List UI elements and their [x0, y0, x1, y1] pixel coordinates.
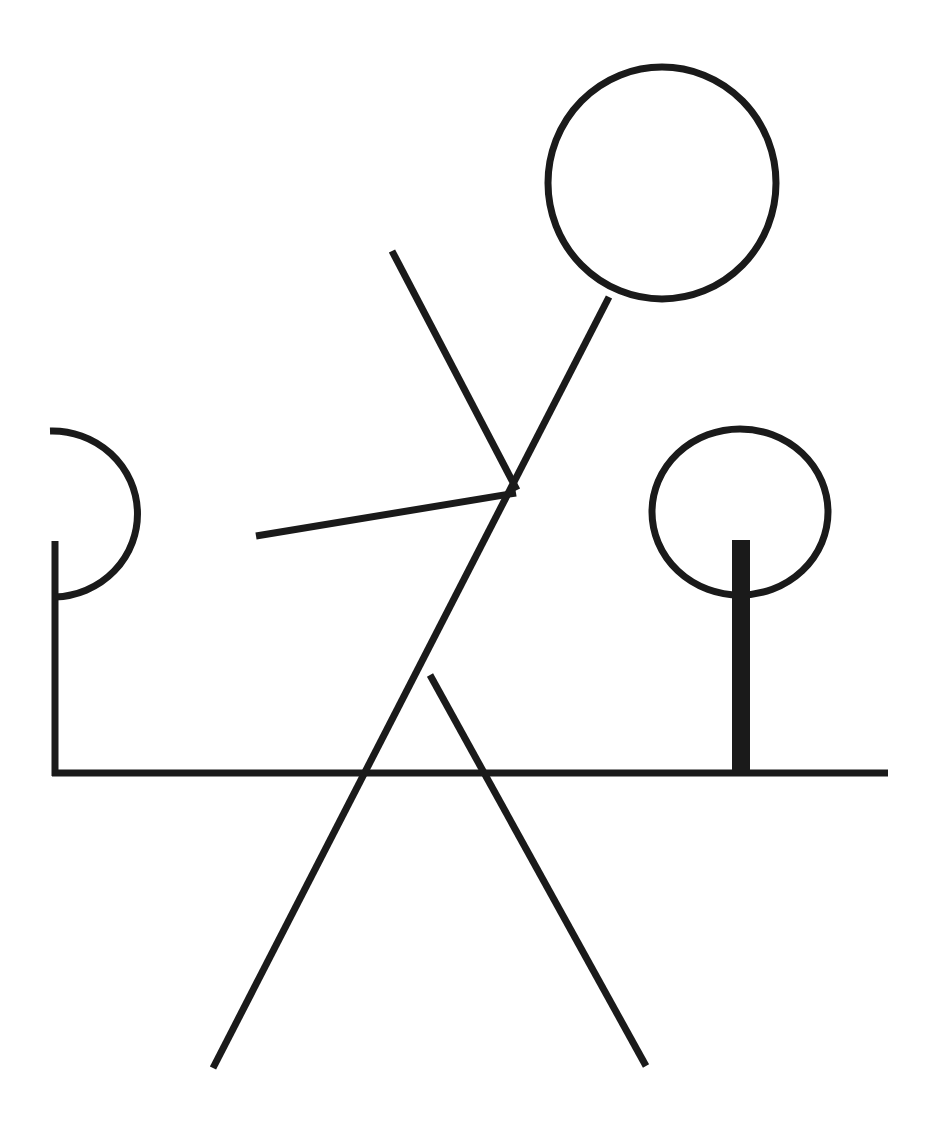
background	[0, 0, 936, 1122]
stick-figure-diagram	[0, 0, 936, 1122]
right-thick-post	[732, 540, 750, 776]
